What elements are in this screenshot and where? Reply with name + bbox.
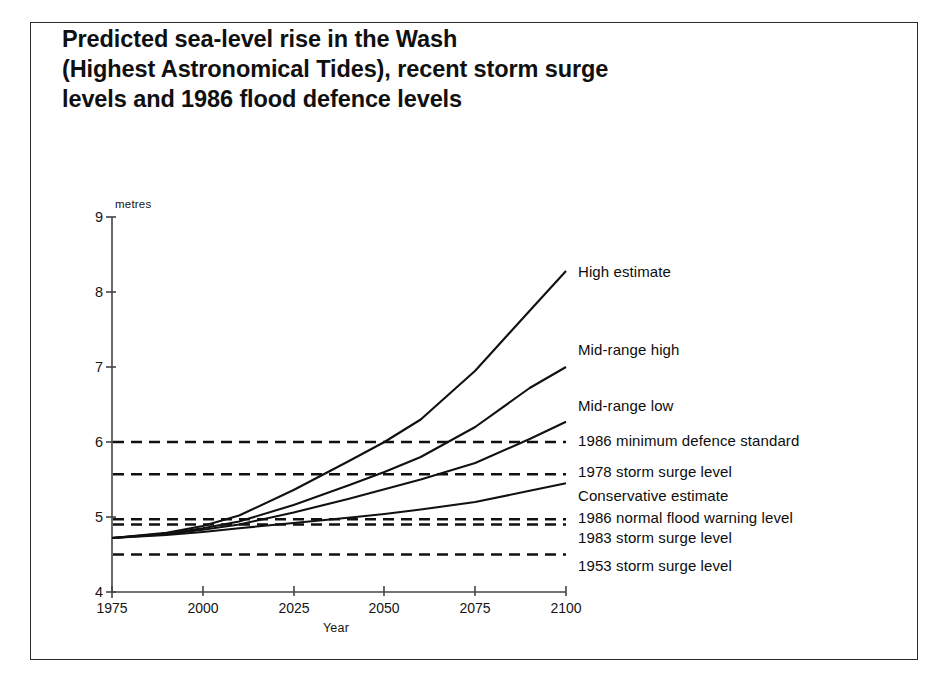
x-tick-label-2050: 2050 bbox=[354, 600, 414, 616]
x-tick-label-2000: 2000 bbox=[173, 600, 233, 616]
chart-title: Predicted sea-level rise in the Wash (Hi… bbox=[62, 24, 862, 114]
series-label-high-estimate: High estimate bbox=[578, 263, 671, 280]
page-canvas: Predicted sea-level rise in the Wash (Hi… bbox=[0, 0, 950, 686]
y-tick-label-9: 9 bbox=[85, 209, 103, 225]
y-axis-unit-label: metres bbox=[115, 198, 151, 210]
x-axis-title: Year bbox=[296, 621, 376, 635]
x-tick-label-2025: 2025 bbox=[264, 600, 324, 616]
reference-label-1953-storm-surge-level: 1953 storm surge level bbox=[578, 557, 732, 574]
x-tick-label-1975: 1975 bbox=[82, 600, 142, 616]
x-tick-label-2100: 2100 bbox=[536, 600, 596, 616]
x-tick-label-2075: 2075 bbox=[445, 600, 505, 616]
reference-label-1978-storm-surge-level: 1978 storm surge level bbox=[578, 463, 732, 480]
y-tick-label-8: 8 bbox=[85, 284, 103, 300]
reference-label-1983-storm-surge-level: 1983 storm surge level bbox=[578, 529, 732, 546]
figure-border bbox=[30, 22, 918, 660]
y-tick-label-4: 4 bbox=[85, 584, 103, 600]
y-tick-label-5: 5 bbox=[85, 509, 103, 525]
series-label-conservative-estimate: Conservative estimate bbox=[578, 487, 729, 504]
y-tick-label-6: 6 bbox=[85, 434, 103, 450]
y-tick-label-7: 7 bbox=[85, 359, 103, 375]
reference-label-1986-normal-flood-warning-level: 1986 normal flood warning level bbox=[578, 509, 793, 526]
series-label-mid-range-high: Mid-range high bbox=[578, 341, 679, 358]
reference-label-1986-minimum-defence-standard: 1986 minimum defence standard bbox=[578, 432, 799, 449]
series-label-mid-range-low: Mid-range low bbox=[578, 397, 674, 414]
